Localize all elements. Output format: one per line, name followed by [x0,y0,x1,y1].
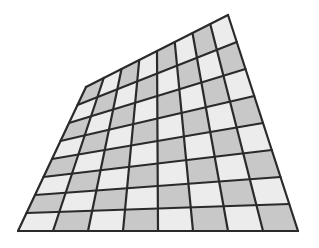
perspective-checkerboard [0,0,319,248]
board-cell [158,184,191,209]
board-cell [88,210,125,231]
board-cell [123,209,158,232]
board-cell [186,157,219,184]
board-cell [158,207,193,231]
board-cell [92,188,127,211]
board-cell [125,186,158,210]
board-cell [188,182,223,208]
board-cell [191,206,228,231]
grid-line [157,51,158,231]
